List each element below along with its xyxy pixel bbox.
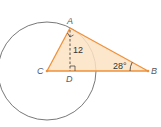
label-c: C [37,66,44,76]
label-b: B [151,66,157,76]
triangle-abc [47,28,148,71]
label-d: D [66,74,73,84]
point-c [46,70,49,73]
label-a: A [66,16,73,26]
point-b [147,70,150,73]
geometry-diagram: A B C D 12 28° [0,0,161,127]
altitude-length-label: 12 [73,45,83,55]
angle-b-label: 28° [113,61,127,71]
